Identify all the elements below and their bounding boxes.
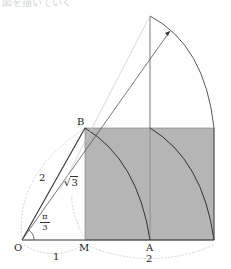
length-OB: 2 [39,173,45,183]
label-B: B [77,117,84,127]
shaded-square [85,128,214,240]
length-MR: 2 [146,254,152,264]
angle-numerator: π [40,213,50,223]
label-O: O [14,243,22,253]
angle-arc [28,230,34,240]
length-sqrt3: √3 [64,178,78,188]
label-A: A [146,243,153,253]
angle-pi-over-3: π3 [40,213,50,232]
dotted-curve-MB [72,195,85,240]
label-M: M [79,243,89,253]
sqrt-radicand: 3 [70,176,77,188]
arrow-head-icon [165,31,170,36]
length-OM: 1 [53,252,59,262]
geometry-diagram [0,0,231,269]
angle-denominator: 3 [40,223,50,232]
